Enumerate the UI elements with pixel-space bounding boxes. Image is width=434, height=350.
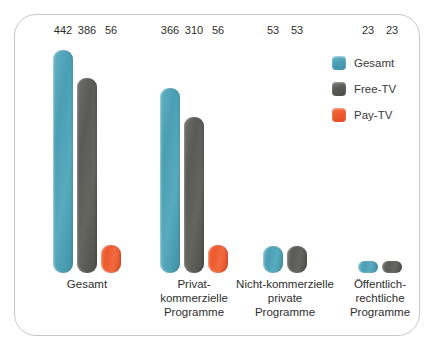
bar-gesamt[interactable]: 442 xyxy=(53,38,73,273)
legend-item-pay-tv[interactable]: Pay-TV xyxy=(332,103,432,126)
bar-rect xyxy=(287,246,307,273)
bar-rect xyxy=(53,50,73,273)
bar-value-label: 53 xyxy=(267,24,279,36)
bar-pay-tv[interactable]: 56 xyxy=(101,38,121,273)
bar-rect xyxy=(358,261,378,273)
legend-swatch-gesamt-icon xyxy=(332,56,346,70)
chart-card: 44238656Gesamt36631056Privat- kommerziel… xyxy=(14,14,420,336)
bar-pay-tv[interactable]: 56 xyxy=(208,38,228,273)
bar-value-label: 53 xyxy=(291,24,303,36)
legend-item-label: Free-TV xyxy=(354,83,396,95)
bar-free-tv[interactable]: 386 xyxy=(77,38,97,273)
legend-swatch-pay-tv-icon xyxy=(332,108,346,122)
bar-rect xyxy=(101,245,121,273)
bar-value-label: 366 xyxy=(161,24,179,36)
bar-value-label: 23 xyxy=(386,24,398,36)
bar-free-tv[interactable]: 310 xyxy=(184,38,204,273)
chart-legend: GesamtFree-TVPay-TV xyxy=(332,51,432,129)
bar-value-label: 386 xyxy=(78,24,96,36)
bar-value-label: 56 xyxy=(105,24,117,36)
legend-item-gesamt[interactable]: Gesamt xyxy=(332,51,432,74)
bar-rect xyxy=(160,88,180,273)
bar-free-tv[interactable]: 53 xyxy=(287,38,307,273)
bar-rect xyxy=(184,117,204,273)
bar-rect xyxy=(382,261,402,273)
bar-gesamt[interactable]: 366 xyxy=(160,38,180,273)
bar-group: 36631056Privat- kommerzielle Programme xyxy=(160,38,228,273)
bar-rect xyxy=(208,245,228,273)
bar-group: 44238656Gesamt xyxy=(53,38,121,273)
bar-group-bars: 44238656 xyxy=(53,38,121,273)
x-axis-category-label: Gesamt xyxy=(27,277,147,291)
x-axis-category-label: Öffentlich- rechtliche Programme xyxy=(325,277,434,319)
bar-group: 5353Nicht-kommerzielle private Programme xyxy=(263,38,307,273)
bar-gesamt[interactable]: 53 xyxy=(263,38,283,273)
legend-item-label: Gesamt xyxy=(354,57,394,69)
bar-value-label: 23 xyxy=(362,24,374,36)
bar-value-label: 310 xyxy=(185,24,203,36)
bar-value-label: 442 xyxy=(54,24,72,36)
legend-swatch-free-tv-icon xyxy=(332,82,346,96)
bar-value-label: 56 xyxy=(212,24,224,36)
bar-rect xyxy=(77,78,97,273)
legend-item-label: Pay-TV xyxy=(354,109,392,121)
bar-group-bars: 36631056 xyxy=(160,38,228,273)
legend-item-free-tv[interactable]: Free-TV xyxy=(332,77,432,100)
bar-group-bars: 5353 xyxy=(263,38,307,273)
bar-rect xyxy=(263,246,283,273)
